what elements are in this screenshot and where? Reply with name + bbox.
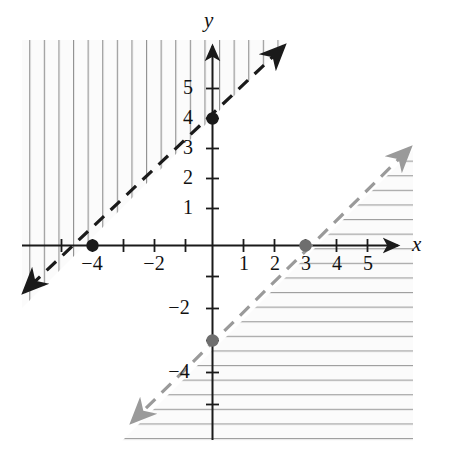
y-tick-label--4: −4 [158, 360, 200, 383]
y-tick-label-5: 5 [176, 76, 200, 99]
x-axis-label: x [412, 232, 421, 257]
point-x-intercept-line2 [299, 239, 311, 251]
x-tick-label-2: 2 [265, 252, 285, 275]
x-tick-label--4: −4 [72, 252, 112, 275]
x-tick-label--2: −2 [134, 252, 174, 275]
x-tick-label-3: 3 [296, 252, 316, 275]
point-x-intercept-line1 [86, 239, 98, 251]
y-axis-label: y [204, 8, 213, 33]
y-tick-label-3: 3 [176, 136, 200, 159]
figure-canvas: y x −4 −2 1 2 3 4 5 5 4 3 2 1 −2 −4 [0, 0, 455, 454]
x-tick-label-1: 1 [234, 252, 254, 275]
coordinate-plane-svg [0, 0, 455, 454]
y-tick-label-4: 4 [176, 106, 200, 129]
y-tick-label-2: 2 [176, 166, 200, 189]
point-y-intercept-line2 [206, 334, 218, 346]
x-tick-label-5: 5 [358, 252, 378, 275]
y-tick-label--2: −2 [158, 296, 200, 319]
y-tick-label-1: 1 [176, 196, 200, 219]
x-tick-label-4: 4 [327, 252, 347, 275]
point-y-intercept-line1 [206, 112, 218, 124]
